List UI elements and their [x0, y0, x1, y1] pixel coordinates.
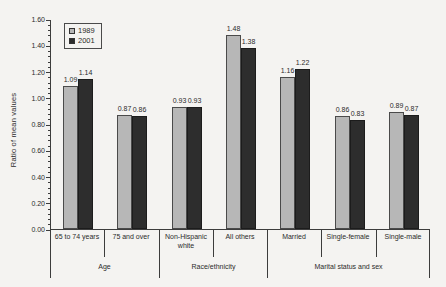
- legend-item: 2001: [69, 37, 95, 45]
- bar-2001: [404, 115, 419, 229]
- bar-1989: [389, 112, 404, 229]
- bar-1989: [226, 35, 241, 229]
- legend-label: 2001: [78, 37, 95, 45]
- y-minor-tick: [48, 219, 50, 220]
- y-minor-tick: [48, 51, 50, 52]
- bar-value-label: 0.93: [182, 97, 207, 105]
- y-minor-tick: [48, 77, 50, 78]
- y-minor-tick: [48, 25, 50, 26]
- bar-value-label: 0.87: [399, 105, 424, 113]
- y-major-tick: [46, 98, 50, 99]
- category-label: Single-female: [321, 230, 375, 257]
- y-tick-label: 1.40: [5, 42, 45, 50]
- y-minor-tick: [48, 109, 50, 110]
- y-minor-tick: [48, 193, 50, 194]
- ratio-of-mean-values-bar-chart: Ratio of mean values 0.000.200.400.600.8…: [0, 0, 446, 287]
- y-minor-tick: [48, 41, 50, 42]
- plot-area: 0.000.200.400.600.801.001.201.401.60 1.0…: [50, 20, 430, 230]
- bar-2001: [241, 48, 256, 229]
- bar-value-label: 1.22: [290, 59, 315, 67]
- bar-1989: [117, 115, 132, 229]
- y-minor-tick: [48, 214, 50, 215]
- bar-value-label: 0.83: [345, 110, 370, 118]
- y-tick-label: 1.60: [5, 16, 45, 24]
- group-label: Race/ethnicity: [159, 257, 268, 278]
- bar-1989: [335, 116, 350, 229]
- y-minor-tick: [48, 30, 50, 31]
- y-minor-tick: [48, 161, 50, 162]
- legend: 19892001: [64, 23, 102, 49]
- y-major-tick: [46, 46, 50, 47]
- y-minor-tick: [48, 83, 50, 84]
- y-tick-label: 0.00: [5, 226, 45, 234]
- category-label: 75 and over: [104, 230, 158, 257]
- y-tick-label: 0.80: [5, 121, 45, 129]
- y-minor-tick: [48, 130, 50, 131]
- y-minor-tick: [48, 188, 50, 189]
- y-tick-label: 1.00: [5, 95, 45, 103]
- bar-value-label: 1.38: [236, 38, 261, 46]
- legend-item: 1989: [69, 27, 95, 35]
- y-tick-label: 1.20: [5, 69, 45, 77]
- bar-value-label: 1.14: [73, 69, 98, 77]
- bar-value-label: 0.86: [127, 106, 152, 114]
- y-major-tick: [46, 203, 50, 204]
- y-tick-label: 0.20: [5, 200, 45, 208]
- y-minor-tick: [48, 146, 50, 147]
- y-minor-tick: [48, 167, 50, 168]
- y-minor-tick: [48, 56, 50, 57]
- group-label: Marital status and sex: [267, 257, 430, 278]
- legend-label: 1989: [78, 27, 95, 35]
- y-minor-tick: [48, 209, 50, 210]
- y-minor-tick: [48, 104, 50, 105]
- y-minor-tick: [48, 135, 50, 136]
- y-minor-tick: [48, 62, 50, 63]
- bar-1989: [172, 107, 187, 229]
- category-label: 65 to 74 years: [50, 230, 104, 257]
- bar-value-label: 1.48: [221, 25, 246, 33]
- y-axis-title: Ratio of mean values: [9, 93, 18, 167]
- y-minor-tick: [48, 224, 50, 225]
- y-minor-tick: [48, 88, 50, 89]
- category-label: All others: [213, 230, 267, 257]
- y-major-tick: [46, 20, 50, 21]
- y-minor-tick: [48, 93, 50, 94]
- y-minor-tick: [48, 114, 50, 115]
- y-minor-tick: [48, 67, 50, 68]
- y-minor-tick: [48, 35, 50, 36]
- legend-swatch-1989: [69, 28, 75, 34]
- category-label: Married: [267, 230, 321, 257]
- bar-2001: [78, 79, 93, 229]
- category-axis-area: 65 to 74 years75 and overNon-Hispanic wh…: [50, 230, 430, 278]
- y-minor-tick: [48, 119, 50, 120]
- y-minor-tick: [48, 172, 50, 173]
- y-tick-label: 0.40: [5, 174, 45, 182]
- group-label: Age: [50, 257, 159, 278]
- legend-swatch-2001: [69, 38, 75, 44]
- bar-2001: [132, 116, 147, 229]
- bar-2001: [295, 69, 310, 229]
- y-major-tick: [46, 72, 50, 73]
- y-tick-label: 0.60: [5, 147, 45, 155]
- category-label: Single-male: [376, 230, 430, 257]
- category-label: Non-Hispanic white: [159, 230, 213, 257]
- y-major-tick: [46, 177, 50, 178]
- y-major-tick: [46, 151, 50, 152]
- bar-1989: [280, 77, 295, 229]
- bar-2001: [187, 107, 202, 229]
- y-minor-tick: [48, 198, 50, 199]
- bar-2001: [350, 120, 365, 229]
- y-minor-tick: [48, 156, 50, 157]
- y-minor-tick: [48, 140, 50, 141]
- y-minor-tick: [48, 182, 50, 183]
- bar-1989: [63, 86, 78, 229]
- y-major-tick: [46, 125, 50, 126]
